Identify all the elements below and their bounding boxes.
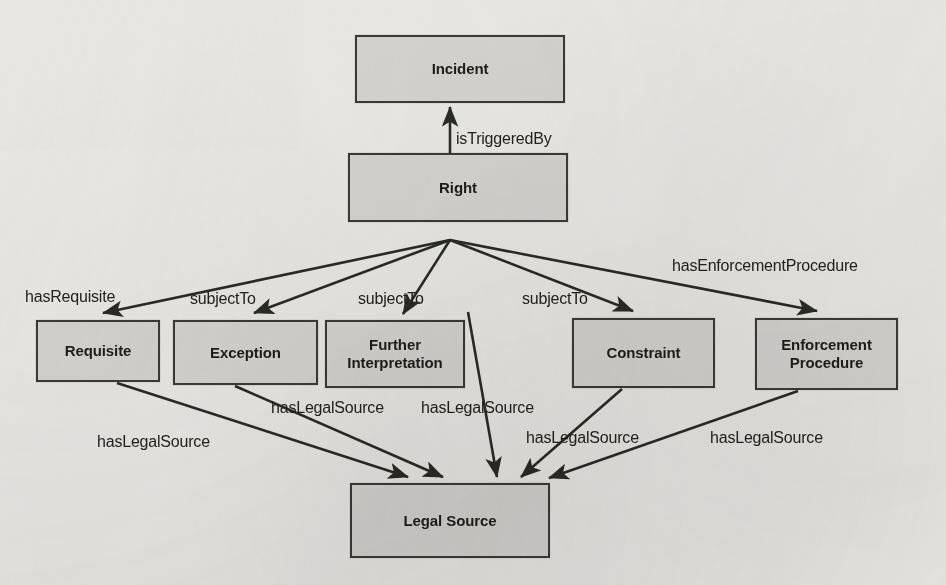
edge-label-subjectto-exception: subjectTo <box>190 291 256 307</box>
edge-label-haslegalsource-requisite: hasLegalSource <box>97 434 210 450</box>
edge-right-hasenforcementprocedure-enforcement-procedure <box>450 240 817 311</box>
node-exception-label: Exception <box>206 344 285 362</box>
edge-label-haslegalsource-exception: hasLegalSource <box>271 400 384 416</box>
edge-requisite-haslegalsource-legal-source <box>117 383 408 477</box>
node-requisite[interactable]: Requisite <box>36 320 160 382</box>
node-incident[interactable]: Incident <box>355 35 565 103</box>
edge-label-hasrequisite: hasRequisite <box>25 289 115 305</box>
node-constraint-label: Constraint <box>602 344 684 362</box>
edge-label-istriggeredby: isTriggeredBy <box>456 131 552 147</box>
node-enforcement-procedure-label: EnforcementProcedure <box>777 336 876 371</box>
node-incident-label: Incident <box>428 60 493 78</box>
edge-further-interpretation-haslegalsource-legal-source <box>468 312 497 477</box>
node-further-interpretation[interactable]: FurtherInterpretation <box>325 320 465 388</box>
node-legal-source-label: Legal Source <box>400 512 501 530</box>
node-legal-source[interactable]: Legal Source <box>350 483 550 558</box>
node-right-label: Right <box>435 179 481 197</box>
edge-label-hasenforcementprocedure: hasEnforcementProcedure <box>672 258 858 274</box>
edge-label-subjectto-further-interpretation: subjectTo <box>358 291 424 307</box>
edge-label-subjectto-constraint: subjectTo <box>522 291 588 307</box>
node-right[interactable]: Right <box>348 153 568 222</box>
node-exception[interactable]: Exception <box>173 320 318 385</box>
ontology-diagram-canvas: Incident Right Requisite Exception Furth… <box>0 0 946 585</box>
node-requisite-label: Requisite <box>61 342 136 360</box>
node-constraint[interactable]: Constraint <box>572 318 715 388</box>
paper-grain-overlay <box>0 0 300 150</box>
node-further-interpretation-label: FurtherInterpretation <box>343 336 446 371</box>
edge-label-haslegalsource-constraint: hasLegalSource <box>526 430 639 446</box>
edge-label-haslegalsource-further-interpretation: hasLegalSource <box>421 400 534 416</box>
node-enforcement-procedure[interactable]: EnforcementProcedure <box>755 318 898 390</box>
edge-label-haslegalsource-enforcement-procedure: hasLegalSource <box>710 430 823 446</box>
